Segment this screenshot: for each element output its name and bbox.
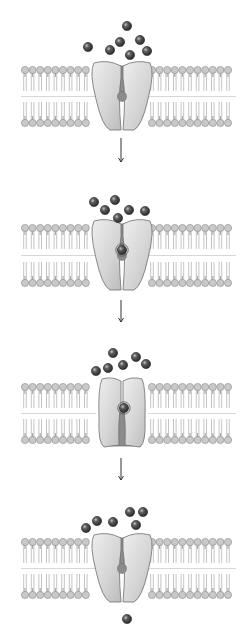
solute-particle (115, 37, 124, 46)
panel-step-3: Channel changes shape, opening to interi… (21, 348, 236, 447)
released-solute-particle (122, 614, 131, 623)
solute-particle (125, 507, 134, 516)
channel-protein (92, 534, 152, 602)
solute-particle (131, 520, 140, 529)
solute-particle (83, 42, 92, 51)
solute-particle (81, 523, 90, 532)
panel-step-2: Particle binds within channel (21, 195, 236, 290)
solute-particle (140, 206, 149, 215)
solute-particle (110, 195, 119, 204)
solute-particle (118, 360, 127, 369)
solute-particle (108, 348, 117, 357)
solute-particle (124, 205, 133, 214)
solute-particle (131, 352, 140, 361)
bound-solute-particle (119, 403, 128, 412)
solute-particle (105, 45, 114, 54)
solute-particle (108, 517, 117, 526)
down-arrow-icon (119, 458, 124, 480)
solute-particle (125, 50, 134, 59)
solute-particle (141, 359, 150, 368)
solute-particle (92, 516, 101, 525)
down-arrow-icon (119, 138, 124, 162)
solute-particle (138, 507, 147, 516)
channel-transport-diagram: Particles outside; channel open to exter… (0, 0, 247, 639)
solute-particle (91, 366, 100, 375)
bound-solute-particle (117, 245, 126, 254)
solute-particle (100, 205, 109, 214)
panel-step-4: Particle released inside; channel return… (21, 507, 236, 623)
panel-step-1: Particles outside; channel open to exter… (21, 21, 236, 130)
solute-particle (135, 35, 144, 44)
solute-particle (122, 21, 131, 30)
channel-protein (92, 62, 152, 130)
solute-particle (103, 363, 112, 372)
solute-particle (113, 213, 122, 222)
down-arrow-icon (119, 300, 124, 322)
solute-particle (89, 197, 98, 206)
solute-particle (142, 46, 151, 55)
